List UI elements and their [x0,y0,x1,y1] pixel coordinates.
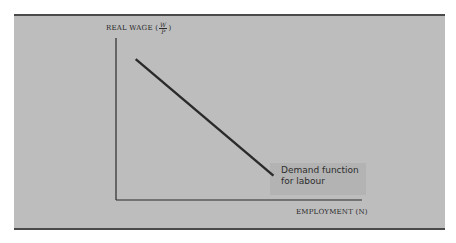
chart-svg [0,0,456,243]
demand-curve-line [136,59,274,176]
